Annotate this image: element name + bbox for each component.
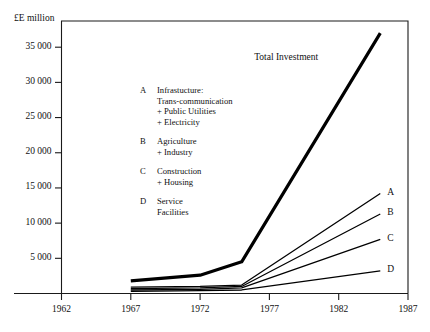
legend-key-c: C	[140, 166, 157, 187]
chart-figure: £E million Total Investment 5 00010 0001…	[0, 0, 430, 332]
legend-text-a: Infrastucture: Trans-communication + Pub…	[157, 85, 233, 127]
legend-item-d: DService Facilities	[140, 196, 189, 217]
series-label-d: D	[387, 264, 394, 275]
series-label-c: C	[387, 233, 393, 244]
y-tick-label: 5 000	[0, 252, 52, 263]
y-tick-label: 25 000	[0, 111, 52, 122]
legend-text-c: Construction + Housing	[157, 166, 201, 187]
y-tick-label: 10 000	[0, 217, 52, 228]
y-tick-label: 35 000	[0, 41, 52, 52]
x-tick-label: 1982	[316, 304, 362, 315]
legend-text-d: Service Facilities	[157, 196, 189, 217]
chart-canvas	[0, 0, 430, 332]
y-tick-label: 20 000	[0, 146, 52, 157]
legend-text-b: Agriculture + Industry	[157, 136, 197, 157]
x-tick-label: 1972	[177, 304, 223, 315]
x-tick-label: 1987	[385, 304, 430, 315]
legend-item-b: BAgriculture + Industry	[140, 136, 197, 157]
series-line-c	[131, 239, 380, 290]
legend-key-b: B	[140, 136, 157, 157]
x-tick-label: 1967	[108, 304, 154, 315]
annotation-total-investment: Total Investment	[254, 52, 318, 63]
legend-item-a: AInfrastucture: Trans-communication + Pu…	[140, 85, 233, 127]
legend-key-d: D	[140, 196, 157, 217]
data-series	[131, 33, 380, 291]
x-tick-label: 1977	[246, 304, 292, 315]
y-axis-title: £E million	[14, 13, 54, 24]
legend-key-a: A	[140, 85, 157, 127]
axes	[14, 21, 408, 294]
y-tick-label: 30 000	[0, 76, 52, 87]
y-tick-label: 15 000	[0, 181, 52, 192]
legend-item-c: CConstruction + Housing	[140, 166, 201, 187]
series-label-a: A	[387, 187, 394, 198]
series-label-b: B	[387, 207, 393, 218]
x-tick-label: 1962	[39, 304, 85, 315]
